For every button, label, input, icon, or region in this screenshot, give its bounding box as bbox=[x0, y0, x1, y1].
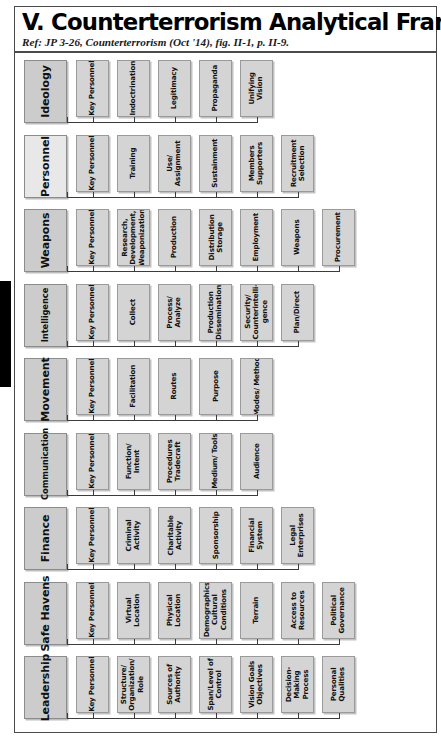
node-box[interactable]: PersonalQualities bbox=[322, 656, 355, 713]
node-box[interactable]: LegalEnterprises bbox=[281, 507, 314, 564]
node-label: Medium/ Tools bbox=[211, 433, 219, 488]
node-label: Facilitation bbox=[129, 365, 137, 408]
node-box[interactable]: Modes/ Method bbox=[240, 358, 273, 415]
category-movement[interactable]: Movement bbox=[24, 358, 67, 421]
node-box[interactable]: Legitimacy bbox=[158, 60, 191, 117]
node-box[interactable]: Weapons bbox=[281, 209, 314, 266]
node-box[interactable]: Collect bbox=[117, 284, 150, 341]
framework-diagram: IdeologyKey PersonnelIndoctrinationLegit… bbox=[16, 55, 435, 731]
connector-spine bbox=[67, 644, 339, 645]
node-label: Purpose bbox=[211, 371, 219, 403]
node-box[interactable]: Key Personnel bbox=[76, 507, 109, 564]
framework-page: V. Counterterrorism Analytical Framework… bbox=[0, 0, 441, 742]
node-label: Procurement bbox=[334, 212, 342, 262]
node-label: Process/Analyze bbox=[166, 296, 183, 328]
connector-spine bbox=[67, 718, 339, 719]
node-box[interactable]: Key Personnel bbox=[76, 656, 109, 713]
node-box[interactable]: Process/Analyze bbox=[158, 284, 191, 341]
node-box[interactable]: Key Personnel bbox=[76, 60, 109, 117]
node-box[interactable]: Structure/Organization/Role bbox=[117, 656, 150, 713]
node-label: Use/Assignment bbox=[166, 140, 183, 186]
node-box[interactable]: UnifyingVision bbox=[240, 60, 273, 117]
node-label: Structure/Organization/Role bbox=[121, 658, 146, 710]
category-safe-havens[interactable]: Safe Havens bbox=[24, 582, 67, 645]
node-box[interactable]: ProductionDissemination bbox=[199, 284, 232, 341]
node-box[interactable]: Decision-MakingProcess bbox=[281, 656, 314, 713]
node-label: VirtualLocation bbox=[125, 594, 142, 627]
node-box[interactable]: DemographicsCulturalConditions bbox=[199, 582, 232, 639]
node-box[interactable]: Function/Intent bbox=[117, 433, 150, 490]
node-box[interactable]: Access toResources bbox=[281, 582, 314, 639]
node-box[interactable]: Security/Counterintelli-gence bbox=[240, 284, 273, 341]
node-box[interactable]: Indoctrination bbox=[117, 60, 150, 117]
node-box[interactable]: Production bbox=[158, 209, 191, 266]
node-box[interactable]: PhysicalLocation bbox=[158, 582, 191, 639]
section-edge-tab bbox=[0, 281, 11, 387]
connector-drop bbox=[298, 341, 299, 347]
node-box[interactable]: MembersSupporters bbox=[240, 135, 273, 192]
node-label: CriminalActivity bbox=[125, 519, 142, 551]
node-box[interactable]: Audience bbox=[240, 433, 273, 490]
node-box[interactable]: Span/Level ofControl bbox=[199, 656, 232, 713]
category-finance[interactable]: Finance bbox=[24, 507, 67, 570]
node-box[interactable]: Key Personnel bbox=[76, 209, 109, 266]
node-box[interactable]: Vision GoalsObjectives bbox=[240, 656, 273, 713]
category-band: IntelligenceKey PersonnelCollectProcess/… bbox=[16, 279, 435, 354]
node-box[interactable]: Key Personnel bbox=[76, 433, 109, 490]
node-label: Sponsorship bbox=[211, 512, 219, 560]
node-box[interactable]: DistributionStorage bbox=[199, 209, 232, 266]
node-box[interactable]: Key Personnel bbox=[76, 582, 109, 639]
node-box[interactable]: Key Personnel bbox=[76, 284, 109, 341]
node-box[interactable]: Purpose bbox=[199, 358, 232, 415]
node-label: Key Personnel bbox=[88, 582, 96, 637]
category-communication[interactable]: Communication bbox=[24, 433, 67, 496]
node-label: Key Personnel bbox=[88, 657, 96, 712]
category-leadership[interactable]: Leadership bbox=[24, 656, 67, 719]
category-ideology[interactable]: Ideology bbox=[24, 60, 67, 123]
node-box[interactable]: Training bbox=[117, 135, 150, 192]
node-box[interactable]: CharitableActivity bbox=[158, 507, 191, 564]
node-box[interactable]: Routes bbox=[158, 358, 191, 415]
node-box[interactable]: Medium/ Tools bbox=[199, 433, 232, 490]
node-label: Production bbox=[170, 216, 178, 258]
connector-spine bbox=[67, 122, 257, 123]
node-box[interactable]: Propaganda bbox=[199, 60, 232, 117]
node-label: Terrain bbox=[252, 597, 260, 624]
connector-spine bbox=[67, 271, 339, 272]
node-box[interactable]: PoliticalGovernance bbox=[322, 582, 355, 639]
node-box[interactable]: Procurement bbox=[322, 209, 355, 266]
node-label: Collect bbox=[129, 299, 137, 325]
node-box[interactable]: Sponsorship bbox=[199, 507, 232, 564]
node-box[interactable]: Sustainment bbox=[199, 135, 232, 192]
node-box[interactable]: VirtualLocation bbox=[117, 582, 150, 639]
node-box[interactable]: CriminalActivity bbox=[117, 507, 150, 564]
category-personnel[interactable]: Personnel bbox=[24, 135, 67, 198]
node-label: Function/Intent bbox=[125, 443, 142, 479]
node-box[interactable]: Research,Development,Weaponization bbox=[117, 209, 150, 266]
connector-spine bbox=[67, 495, 257, 496]
connector-spine bbox=[67, 420, 257, 421]
node-box[interactable]: Sources ofAuthority bbox=[158, 656, 191, 713]
node-box[interactable]: ProceduresTradecraft bbox=[158, 433, 191, 490]
node-box[interactable]: Employment bbox=[240, 209, 273, 266]
node-label: Vision GoalsObjectives bbox=[248, 661, 265, 708]
node-box[interactable]: Key Personnel bbox=[76, 135, 109, 192]
node-label: RecruitmentSelection bbox=[289, 139, 306, 187]
node-box[interactable]: Terrain bbox=[240, 582, 273, 639]
node-box[interactable]: Facilitation bbox=[117, 358, 150, 415]
node-label: Sources ofAuthority bbox=[166, 664, 183, 705]
node-label: Key Personnel bbox=[88, 508, 96, 563]
category-band: PersonnelKey PersonnelTrainingUse/Assign… bbox=[16, 130, 435, 205]
category-band: LeadershipKey PersonnelStructure/Organiz… bbox=[16, 651, 435, 726]
node-box[interactable]: RecruitmentSelection bbox=[281, 135, 314, 192]
connector-drop bbox=[257, 415, 258, 421]
category-band: FinanceKey PersonnelCriminalActivityChar… bbox=[16, 502, 435, 577]
category-weapons[interactable]: Weapons bbox=[24, 209, 67, 272]
category-intelligence[interactable]: Intelligence bbox=[24, 284, 67, 347]
category-label: Personnel bbox=[39, 135, 52, 196]
node-box[interactable]: Plan/Direct bbox=[281, 284, 314, 341]
node-box[interactable]: FinancialSystem bbox=[240, 507, 273, 564]
node-box[interactable]: Key Personnel bbox=[76, 358, 109, 415]
connector-drop bbox=[339, 266, 340, 272]
node-box[interactable]: Use/Assignment bbox=[158, 135, 191, 192]
